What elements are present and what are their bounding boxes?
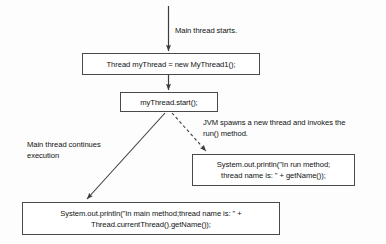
- thread-flow-diagram: Thread myThread = new MyThread1(); myThr…: [0, 0, 386, 244]
- main-method-print-statement-box: System.out.println("In main method;threa…: [22, 202, 280, 235]
- main-thread-starts-label: Main thread starts.: [175, 25, 237, 36]
- main-thread-continues-label: Main thread continues execution: [27, 139, 132, 161]
- start-thread-statement-box: myThread.start();: [120, 92, 218, 112]
- create-thread-statement-box: Thread myThread = new MyThread1();: [82, 53, 260, 75]
- run-method-print-statement-box: System.out.println("In run method; threa…: [192, 154, 355, 186]
- jvm-spawns-thread-label: JVM spawns a new thread and invokes the …: [203, 117, 345, 139]
- edge-start-to-run-print-dashed: [172, 113, 206, 151]
